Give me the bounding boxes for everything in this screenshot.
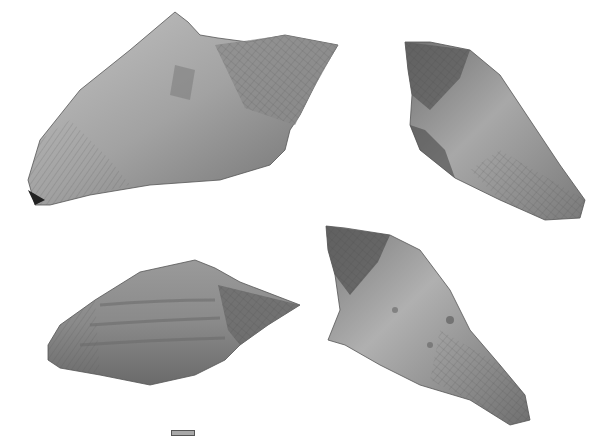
specimen-top-right: [405, 42, 585, 220]
specimen-bottom-right: [326, 226, 530, 425]
specimen-bottom-left: [48, 260, 300, 385]
scale-bar: [171, 430, 195, 436]
specimen-top-left: [28, 12, 338, 205]
specimen-plate: [0, 0, 592, 436]
